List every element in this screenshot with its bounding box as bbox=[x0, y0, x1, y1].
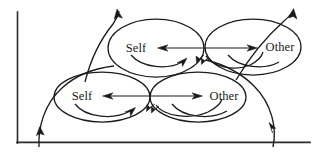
lower-self-loop-curve bbox=[75, 104, 130, 116]
lower-other-label: Other bbox=[210, 89, 239, 104]
top-right-curve-arrowhead bbox=[289, 9, 297, 20]
top-left-curve-arrowhead bbox=[114, 9, 122, 19]
upper-other-label: Other bbox=[266, 40, 295, 55]
axis-frame bbox=[17, 12, 310, 143]
lower-self-label: Self bbox=[72, 89, 93, 104]
upper-other-loop-curve bbox=[228, 55, 279, 67]
lower-self-loop-arrowhead bbox=[125, 108, 136, 117]
lower-self-ellipse bbox=[54, 72, 150, 122]
upper-self-label: Self bbox=[126, 41, 147, 56]
upper-self-loop-arrowhead bbox=[177, 58, 187, 66]
diagram-canvas bbox=[0, 0, 313, 157]
upper-self-loop-curve bbox=[131, 55, 182, 67]
lower-other-secondary-arrowhead bbox=[151, 106, 159, 113]
bottom-left-curve-arrowhead bbox=[36, 127, 44, 136]
figure-root: Self Other Self Other bbox=[0, 0, 313, 157]
